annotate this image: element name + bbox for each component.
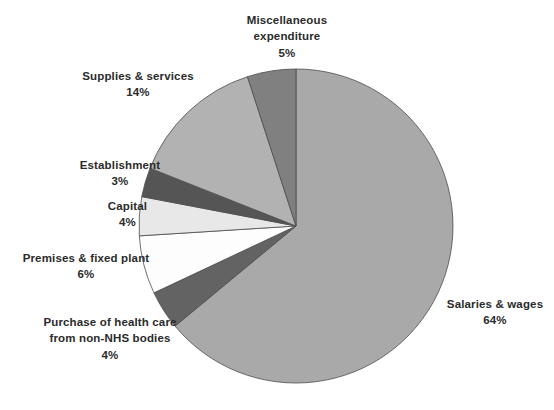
pie-label-text-line1: Premises & fixed plant: [6, 250, 166, 266]
pie-label-text-line1: Supplies & services: [58, 68, 218, 84]
pie-label-percent: 3%: [50, 173, 190, 189]
cropped-header-text: [0, 0, 554, 2]
pie-label-premises-and-fixed-plant: Premises & fixed plant 6%: [6, 250, 166, 283]
pie-label-miscellaneous-expenditure: Miscellaneous expenditure 5%: [212, 12, 362, 61]
pie-label-purchase-of-health-care: Purchase of health care from non-NHS bod…: [20, 314, 200, 363]
pie-label-salaries-and-wages: Salaries & wages 64%: [435, 296, 554, 329]
pie-label-percent: 6%: [6, 266, 166, 282]
pie-label-text-line1: Establishment: [50, 157, 190, 173]
pie-label-percent: 5%: [212, 45, 362, 61]
pie-label-text-line1: Purchase of health care: [20, 314, 200, 330]
pie-label-text-line1: Salaries & wages: [435, 296, 554, 312]
pie-label-text-line2: from non-NHS bodies: [20, 330, 200, 346]
pie-label-percent: 4%: [20, 347, 200, 363]
pie-label-percent: 4%: [70, 214, 185, 230]
pie-label-percent: 14%: [58, 84, 218, 100]
pie-label-text-line1: Capital: [70, 198, 185, 214]
pie-label-text-line2: expenditure: [212, 28, 362, 44]
pie-label-text-line1: Miscellaneous: [212, 12, 362, 28]
pie-chart-figure: Miscellaneous expenditure 5% Supplies & …: [0, 0, 554, 410]
pie-label-supplies-and-services: Supplies & services 14%: [58, 68, 218, 101]
pie-label-capital: Capital 4%: [70, 198, 185, 231]
pie-label-percent: 64%: [435, 312, 554, 328]
pie-label-establishment: Establishment 3%: [50, 157, 190, 190]
